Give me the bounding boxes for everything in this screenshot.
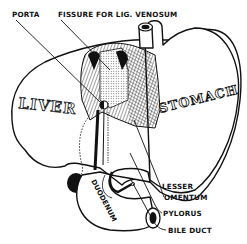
bile-duct-label: BILE DUCT (168, 226, 212, 235)
omentum-label: OMENTUM (164, 193, 207, 202)
anatomy-diagram: LIVER STOMACH DUODENUM PORTA FISSURE FOR… (0, 0, 247, 244)
porta-label: PORTA (12, 10, 40, 19)
fissure-label: FISSURE FOR LIG. VENOSUM (58, 10, 177, 19)
lesser-label: LESSER (162, 182, 193, 191)
pylorus-label: PYLORUS (163, 209, 202, 218)
